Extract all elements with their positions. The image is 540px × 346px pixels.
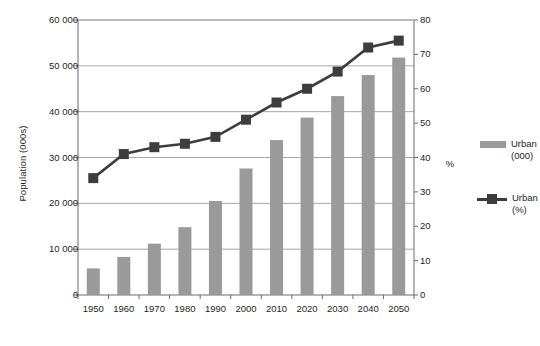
bar bbox=[87, 268, 100, 295]
bar bbox=[178, 227, 191, 295]
line-series-urban-percent bbox=[88, 36, 403, 184]
y-axis-tick-label: 60 000 bbox=[18, 15, 78, 25]
legend-item-urban-percent[interactable]: Urban (%) bbox=[477, 192, 538, 216]
line-marker bbox=[241, 115, 251, 125]
legend-bar-swatch-icon bbox=[480, 141, 506, 148]
line-marker bbox=[88, 173, 98, 183]
secondary-y-axis-tick-label: 50 bbox=[420, 118, 442, 128]
y-axis-tick-label: 10 000 bbox=[18, 244, 78, 254]
secondary-y-axis-ticks bbox=[414, 20, 418, 295]
line-marker bbox=[363, 43, 373, 53]
legend-line-swatch-icon bbox=[477, 193, 507, 205]
bar bbox=[209, 201, 222, 295]
secondary-y-axis-tick-label: 60 bbox=[420, 84, 442, 94]
y-axis-tick-label: 30 000 bbox=[18, 153, 78, 163]
plot-area bbox=[0, 0, 540, 346]
secondary-y-axis-tick-label: 0 bbox=[420, 290, 442, 300]
secondary-y-axis-tick-label: 20 bbox=[420, 221, 442, 231]
secondary-y-axis-tick-label: 70 bbox=[420, 49, 442, 59]
secondary-y-axis-tick-label: 10 bbox=[420, 256, 442, 266]
legend-label-line2: (000) bbox=[511, 150, 533, 161]
bar bbox=[240, 169, 253, 296]
line-marker bbox=[210, 132, 220, 142]
x-axis-tick-label: 2050 bbox=[379, 304, 419, 314]
line-marker bbox=[394, 36, 404, 46]
y-axis-tick-label: 40 000 bbox=[18, 107, 78, 117]
bar bbox=[301, 118, 314, 295]
bar bbox=[331, 96, 344, 295]
legend-label-line2: (%) bbox=[512, 204, 527, 215]
legend-label-line1: Urban bbox=[511, 138, 537, 149]
y-axis-tick-label: 0 bbox=[18, 290, 78, 300]
bar bbox=[270, 140, 283, 295]
bar-series-urban-000 bbox=[87, 58, 405, 295]
y-axis-tick-label: 20 000 bbox=[18, 198, 78, 208]
y-axis-tick-label: 50 000 bbox=[18, 61, 78, 71]
line-marker bbox=[180, 139, 190, 149]
bar bbox=[117, 257, 130, 295]
line-marker bbox=[119, 149, 129, 159]
secondary-y-axis-tick-label: 40 bbox=[420, 153, 442, 163]
bar bbox=[392, 58, 405, 295]
line-marker bbox=[149, 142, 159, 152]
secondary-y-axis-title: % bbox=[443, 158, 457, 169]
line-marker bbox=[272, 98, 282, 108]
urban-population-chart: Population (000s) % 010 00020 00030 0004… bbox=[0, 0, 540, 346]
legend-label-urban-000: Urban (000) bbox=[511, 138, 537, 162]
x-axis-ticks bbox=[78, 295, 414, 299]
secondary-y-axis-tick-label: 30 bbox=[420, 187, 442, 197]
legend-label-line1: Urban bbox=[512, 192, 538, 203]
line-marker bbox=[333, 67, 343, 77]
secondary-y-axis-tick-label: 80 bbox=[420, 15, 442, 25]
legend-label-urban-percent: Urban (%) bbox=[512, 192, 538, 216]
line-marker bbox=[302, 84, 312, 94]
bar bbox=[148, 244, 161, 295]
bar bbox=[362, 75, 375, 295]
legend-item-urban-000[interactable]: Urban (000) bbox=[480, 138, 537, 162]
